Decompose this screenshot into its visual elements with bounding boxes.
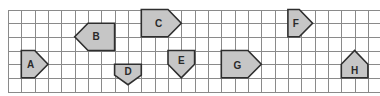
shape-label: B [92,31,99,42]
shape-label: D [124,66,131,77]
pentagon-shape [288,10,313,37]
shape-e: E [168,51,195,78]
shape-label: A [27,59,34,70]
shape-f: F [288,10,313,37]
shape-label: G [233,60,241,71]
shape-b: B [75,23,115,50]
shape-label: F [293,18,299,29]
shape-h: H [341,51,368,78]
pentagon-shape [221,51,261,78]
shape-d: D [115,64,142,85]
shape-c: C [141,10,181,37]
shape-label: E [178,55,185,66]
pentagon-grid-diagram: ABCDEFGH [0,0,380,96]
shape-g: G [221,51,261,78]
pentagon-shape [21,51,48,78]
diagram-canvas: ABCDEFGH A B C D E F G H [0,0,380,96]
shape-label: C [155,18,162,29]
shape-label: H [351,65,358,76]
shape-a: A [21,51,48,78]
